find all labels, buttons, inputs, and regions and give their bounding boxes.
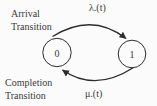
state-0-label: 0 bbox=[55, 48, 60, 59]
state-1-label: 1 bbox=[130, 49, 135, 60]
completion-transition-name-line1: Completion bbox=[5, 77, 52, 88]
arrival-transition-name-line2: Transition bbox=[11, 21, 52, 32]
diagram-svg: 0 1 Arrival Transition λ.(t) Completion … bbox=[0, 0, 157, 106]
completion-transition-arrow bbox=[63, 68, 134, 81]
state-transition-diagram: 0 1 Arrival Transition λ.(t) Completion … bbox=[0, 0, 157, 106]
arrival-transition-arrow bbox=[53, 25, 127, 39]
completion-transition-name-line2: Transition bbox=[5, 90, 46, 101]
arrival-rate-label: λ.(t) bbox=[89, 2, 106, 14]
arrival-transition-name-line1: Arrival bbox=[11, 8, 40, 19]
completion-rate-label: μ.(t) bbox=[85, 88, 102, 100]
